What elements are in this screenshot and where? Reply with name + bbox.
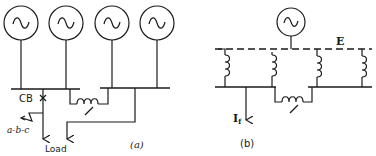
generator-3 [95, 6, 129, 88]
tie-reactor [70, 88, 108, 115]
generator-equivalent [277, 8, 305, 49]
caption-a: (a) [130, 139, 144, 150]
diagram-b: E I [215, 8, 372, 149]
reactance-1 [218, 49, 230, 87]
load-label: Load [45, 144, 67, 154]
generator-1 [4, 6, 38, 89]
generator-4 [140, 6, 174, 88]
generator-2 [49, 6, 83, 89]
sine-icon [284, 18, 298, 27]
variable-arrow-icon [290, 105, 298, 113]
caption-b: (b) [240, 138, 254, 149]
reactance-3 [317, 49, 322, 87]
diagram-canvas: CB a-b-c Load (a) E [0, 0, 376, 156]
reactance-4 [362, 49, 367, 87]
diagram-a: CB a-b-c Load (a) [4, 6, 174, 154]
sine-icon [149, 18, 165, 28]
cb-label: CB [19, 93, 33, 104]
fault-icon [21, 113, 43, 121]
fault-current-label: If [233, 112, 242, 126]
emf-label: E [336, 35, 344, 48]
sine-icon [104, 18, 120, 28]
sine-icon [58, 18, 74, 28]
reactance-2 [272, 52, 277, 87]
sine-icon [13, 18, 29, 28]
fault-label: a-b-c [7, 125, 29, 135]
variable-arrow-icon [85, 107, 93, 115]
tie-reactor-b [275, 87, 312, 113]
